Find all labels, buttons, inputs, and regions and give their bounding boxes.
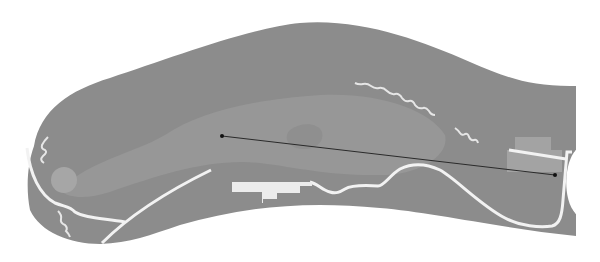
green	[51, 167, 77, 193]
shot-start-marker[interactable]	[220, 134, 224, 138]
golf-hole-map: Golf hole layout Rough Fairw	[0, 0, 600, 262]
shot-end-marker[interactable]	[553, 173, 557, 177]
right-edge-structure	[566, 150, 600, 214]
